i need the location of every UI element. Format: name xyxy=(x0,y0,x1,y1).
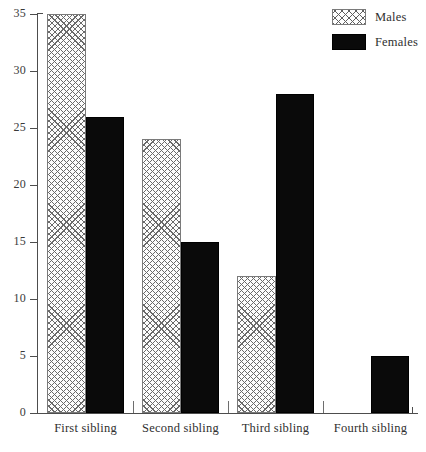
males-hatch-swatch xyxy=(332,9,366,25)
bar-females-group-1 xyxy=(86,117,125,413)
bar-males-group-2 xyxy=(142,139,181,413)
x-axis-line xyxy=(37,413,418,414)
females-solid-swatch xyxy=(332,34,366,50)
bar-males-group-1 xyxy=(47,14,86,413)
plot-area xyxy=(38,14,418,413)
x-axis-label-1: First sibling xyxy=(38,421,133,436)
chart-legend: Males Females xyxy=(332,9,418,50)
y-axis-tick xyxy=(30,128,38,129)
y-axis-tick xyxy=(30,71,38,72)
bar-females-group-3 xyxy=(276,94,315,413)
y-axis-tick xyxy=(30,185,38,186)
y-axis-tick xyxy=(30,356,38,357)
x-axis-label-2: Second sibling xyxy=(133,421,228,436)
bar-females-group-2 xyxy=(181,242,220,413)
y-axis-tick xyxy=(30,299,38,300)
y-axis-tick-label: 0 xyxy=(0,406,26,418)
y-axis-tick-label: 15 xyxy=(0,235,26,247)
legend-label-males: Males xyxy=(375,11,407,24)
x-axis-label-3: Third sibling xyxy=(228,421,323,436)
y-axis-tick xyxy=(30,413,38,414)
y-axis-tick xyxy=(30,242,38,243)
y-axis-tick xyxy=(30,14,38,15)
y-axis-tick-label: 25 xyxy=(0,121,26,133)
x-axis-label-4: Fourth sibling xyxy=(323,421,418,436)
y-axis-tick-label: 35 xyxy=(0,7,26,19)
y-axis-tick-label: 30 xyxy=(0,64,26,76)
legend-label-females: Females xyxy=(375,36,418,49)
y-axis-tick-label: 20 xyxy=(0,178,26,190)
legend-entry-males: Males xyxy=(332,9,418,25)
bar-chart: 05101520253035 First siblingSecond sibli… xyxy=(0,0,426,452)
y-axis-tick-label: 5 xyxy=(0,349,26,361)
legend-entry-females: Females xyxy=(332,34,418,50)
y-axis-tick-label: 10 xyxy=(0,292,26,304)
bar-males-group-3 xyxy=(237,276,276,413)
bar-females-group-4 xyxy=(371,356,410,413)
